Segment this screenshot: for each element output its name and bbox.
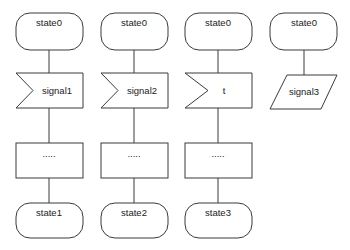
column-1: state0 signal1 ..... state1 (16, 13, 83, 238)
flowchart-canvas: state0 signal1 ..... state1 state0 signa… (0, 0, 350, 250)
column-2: state0 signal2 ..... state2 (101, 13, 168, 238)
signal-label: signal3 (289, 86, 319, 97)
signal-label: t (223, 85, 226, 96)
signal-label: signal1 (42, 85, 72, 96)
start-state-label: state0 (205, 17, 231, 28)
column-4: state0 signal3 (270, 13, 337, 109)
task-label: ..... (42, 148, 55, 159)
start-state-label: state0 (36, 17, 62, 28)
task-label: ..... (211, 148, 224, 159)
input-signal-node[interactable] (185, 73, 252, 108)
column-3: state0 t ..... state3 (185, 13, 252, 238)
signal-label: signal2 (127, 85, 157, 96)
end-state-label: state2 (121, 207, 147, 218)
start-state-label: state0 (121, 17, 147, 28)
end-state-label: state3 (205, 207, 231, 218)
end-state-label: state1 (36, 207, 62, 218)
start-state-label: state0 (291, 17, 317, 28)
task-label: ..... (127, 148, 140, 159)
